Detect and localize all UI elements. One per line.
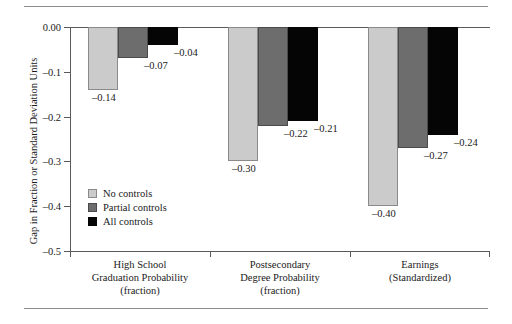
y-tick [64, 117, 70, 118]
figure-caption [24, 313, 488, 321]
y-tick [64, 161, 70, 162]
x-category-label-line: Graduation Probability [70, 271, 210, 284]
y-tick-label: –0.4 [43, 201, 61, 212]
y-axis-title: Gap in Fraction or Standard Deviation Un… [26, 39, 42, 263]
bar [428, 27, 458, 135]
bar-value-label: –0.24 [454, 136, 478, 147]
x-tick [70, 252, 71, 257]
x-category-label-line: Postsecondary [210, 258, 350, 271]
top-rule [24, 6, 488, 7]
legend: No controlsPartial controlsAll controls [88, 186, 167, 228]
legend-item[interactable]: All controls [88, 214, 167, 228]
legend-swatch-icon [88, 217, 97, 226]
bottom-rule [24, 308, 488, 309]
x-axis-line [70, 251, 490, 252]
x-category-label-line: Earnings [350, 258, 490, 271]
bar [368, 27, 398, 206]
bar-value-label: –0.40 [372, 208, 396, 219]
x-category-label: Earnings(Standardized) [350, 258, 490, 284]
legend-item-label: Partial controls [103, 202, 167, 213]
legend-item[interactable]: No controls [88, 186, 167, 200]
bar [258, 27, 288, 126]
y-tick [64, 27, 70, 28]
bar-value-label: –0.07 [144, 60, 168, 71]
bar [88, 27, 118, 90]
legend-item[interactable]: Partial controls [88, 200, 167, 214]
x-category-label: High SchoolGraduation Probability(fracti… [70, 258, 210, 297]
bar [228, 27, 258, 161]
bar [118, 27, 148, 58]
bar-value-label: –0.14 [92, 91, 116, 102]
figure: 0.00–0.1–0.2–0.3–0.4–0.5 –0.14–0.07–0.04… [0, 0, 512, 324]
y-tick [64, 206, 70, 207]
legend-item-label: No controls [103, 188, 152, 199]
y-tick-label: –0.2 [43, 111, 61, 122]
x-tick [350, 252, 351, 257]
bar-value-label: –0.21 [314, 123, 338, 134]
bar [398, 27, 428, 148]
bar-value-label: –0.30 [232, 163, 256, 174]
x-tick [210, 252, 211, 257]
legend-item-label: All controls [103, 216, 153, 227]
y-tick-label: –0.1 [43, 66, 61, 77]
bar [148, 27, 178, 45]
x-category-label-line: High School [70, 258, 210, 271]
y-axis-line [70, 27, 71, 251]
bar-value-label: –0.27 [424, 149, 448, 160]
y-tick-label: –0.5 [43, 246, 61, 257]
x-tick [489, 252, 490, 257]
legend-swatch-icon [88, 189, 97, 198]
x-category-label-line: (Standardized) [350, 271, 490, 284]
bar-value-label: –0.22 [284, 127, 308, 138]
bar [288, 27, 318, 121]
y-tick-label: –0.3 [43, 156, 61, 167]
legend-swatch-icon [88, 203, 97, 212]
bar-value-label: –0.04 [174, 46, 198, 57]
y-tick-label: 0.00 [43, 22, 61, 33]
x-category-label: PostsecondaryDegree Probability(fraction… [210, 258, 350, 297]
x-category-label-line: (fraction) [70, 284, 210, 297]
y-tick [64, 72, 70, 73]
x-category-label-line: (fraction) [210, 284, 350, 297]
x-category-label-line: Degree Probability [210, 271, 350, 284]
